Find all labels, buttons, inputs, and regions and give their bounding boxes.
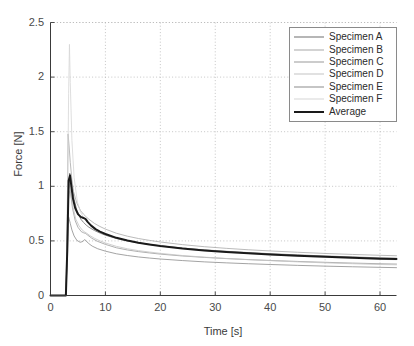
- y-tick-label: 0: [10, 289, 44, 301]
- y-tick-label: 2.5: [10, 16, 44, 28]
- y-tick-label: 1: [10, 179, 44, 191]
- y-tick-label: 1.5: [10, 125, 44, 137]
- legend-item-specimen-f[interactable]: Specimen F: [294, 93, 392, 105]
- x-tick-label: 10: [85, 301, 125, 313]
- legend-item-specimen-c[interactable]: Specimen C: [294, 56, 392, 68]
- legend-item-specimen-b[interactable]: Specimen B: [294, 43, 392, 55]
- legend-item-specimen-a[interactable]: Specimen A: [294, 31, 392, 43]
- series-line-specimen-b: [51, 134, 397, 296]
- x-tick-label: 60: [360, 301, 400, 313]
- legend-label: Average: [329, 106, 366, 118]
- legend-item-specimen-d[interactable]: Specimen D: [294, 68, 392, 80]
- legend-label: Specimen B: [329, 44, 383, 56]
- series-line-specimen-a: [51, 173, 397, 295]
- legend-label: Specimen D: [329, 68, 383, 80]
- series-line-average: [51, 175, 397, 295]
- figure-canvas: Force [N] Time [s] 00.511.522.5 01020304…: [0, 0, 414, 346]
- y-tick-label: 2: [10, 70, 44, 82]
- legend-item-specimen-e[interactable]: Specimen E: [294, 81, 392, 93]
- y-tick-label: 0.5: [10, 234, 44, 246]
- legend-label: Specimen E: [329, 81, 383, 93]
- x-axis-label: Time [s]: [50, 325, 396, 337]
- chart-legend[interactable]: Specimen ASpecimen BSpecimen CSpecimen D…: [289, 27, 397, 122]
- series-line-specimen-c: [51, 181, 397, 296]
- x-tick-label: 0: [31, 301, 71, 313]
- legend-item-average[interactable]: Average: [294, 105, 392, 117]
- x-tick-label: 40: [250, 301, 290, 313]
- legend-label: Specimen F: [329, 93, 382, 105]
- legend-label: Specimen A: [329, 31, 382, 43]
- series-line-specimen-e: [51, 217, 397, 296]
- x-tick-label: 20: [140, 301, 180, 313]
- legend-label: Specimen C: [329, 56, 383, 68]
- x-tick-label: 30: [195, 301, 235, 313]
- x-tick-label: 50: [305, 301, 345, 313]
